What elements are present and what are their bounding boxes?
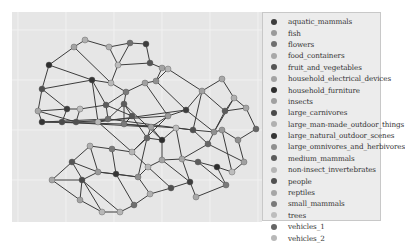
legend-swatch-icon xyxy=(271,235,277,241)
graph-node xyxy=(35,108,41,114)
legend: aquatic_mammalsfishflowersfood_container… xyxy=(262,12,381,221)
graph-node xyxy=(39,119,45,125)
graph-node xyxy=(82,37,88,43)
legend-label: vehicles_2 xyxy=(288,234,325,243)
graph-node xyxy=(229,169,235,175)
graph-node xyxy=(159,157,165,163)
graph-node xyxy=(223,182,229,188)
graph-node xyxy=(131,202,137,208)
legend-label: aquatic_mammals xyxy=(288,17,352,26)
graph-node xyxy=(79,177,85,183)
legend-swatch-icon xyxy=(271,167,277,173)
legend-item: flowers xyxy=(271,39,380,50)
graph-edge xyxy=(214,98,234,132)
network-plot-panel xyxy=(12,12,262,222)
graph-edge xyxy=(132,152,148,167)
legend-swatch-icon xyxy=(271,110,277,116)
legend-swatch-icon xyxy=(271,30,277,36)
graph-edge xyxy=(80,105,106,109)
legend-swatch-icon xyxy=(271,76,277,82)
graph-node xyxy=(46,62,52,68)
graph-node xyxy=(168,185,174,191)
graph-edge xyxy=(90,146,98,172)
graph-edge xyxy=(202,91,225,111)
graph-node xyxy=(99,209,105,215)
legend-item: small_mammals xyxy=(271,198,380,209)
graph-node xyxy=(69,159,75,165)
graph-node xyxy=(179,156,185,162)
graph-node xyxy=(103,102,109,108)
graph-node xyxy=(135,174,141,180)
graph-node xyxy=(143,41,149,47)
graph-edge xyxy=(42,89,67,109)
graph-edge xyxy=(148,167,171,188)
graph-node xyxy=(117,209,123,215)
legend-swatch-icon xyxy=(271,155,277,161)
legend-item: fruit_and_vegetables xyxy=(271,62,380,73)
legend-label: non-insect_invertebrates xyxy=(288,165,376,174)
legend-label: food_containers xyxy=(288,51,344,60)
graph-edge xyxy=(222,79,234,98)
graph-edge xyxy=(116,174,134,205)
legend-label: vehicles_1 xyxy=(288,222,325,231)
legend-item: large_man-made_outdoor_things xyxy=(271,119,380,130)
graph-edge xyxy=(182,144,208,159)
graph-node xyxy=(222,108,228,114)
graph-edge xyxy=(38,89,42,111)
legend-swatch-icon xyxy=(271,144,277,150)
graph-node xyxy=(147,60,153,66)
graph-node xyxy=(153,78,159,84)
legend-item: non-insect_invertebrates xyxy=(271,164,380,175)
graph-node xyxy=(195,159,201,165)
graph-node xyxy=(235,137,241,143)
legend-label: trees xyxy=(288,211,306,220)
legend-label: insects xyxy=(288,97,313,106)
legend-item: vehicles_1 xyxy=(271,221,380,232)
graph-node xyxy=(253,126,259,132)
legend-swatch-icon xyxy=(271,201,277,207)
graph-node xyxy=(241,159,247,165)
graph-edge xyxy=(72,146,90,162)
legend-item: large_omnivores_and_herbivores xyxy=(271,141,380,152)
graph-edge xyxy=(132,116,168,152)
graph-node xyxy=(73,119,79,125)
graph-node xyxy=(183,107,189,113)
legend-swatch-icon xyxy=(271,64,277,70)
graph-edge xyxy=(150,188,171,194)
legend-item: insects xyxy=(271,96,380,107)
legend-label: reptiles xyxy=(288,188,315,197)
graph-node xyxy=(123,89,129,95)
legend-swatch-icon xyxy=(271,224,277,230)
graph-node xyxy=(127,40,133,46)
legend-item: large_carnivores xyxy=(271,107,380,118)
graph-edge xyxy=(118,63,150,65)
graph-node xyxy=(199,88,205,94)
legend-swatch-icon xyxy=(271,212,277,218)
legend-label: large_omnivores_and_herbivores xyxy=(288,142,405,151)
legend-swatch-icon xyxy=(271,53,277,59)
graph-node xyxy=(165,66,171,72)
legend-item: food_containers xyxy=(271,50,380,61)
graph-edge xyxy=(118,43,130,65)
legend-label: small_mammals xyxy=(288,199,345,208)
graph-edge xyxy=(202,79,222,91)
graph-node xyxy=(77,197,83,203)
graph-edge xyxy=(49,65,92,80)
legend-label: people xyxy=(288,177,312,186)
graph-node xyxy=(148,124,154,130)
legend-swatch-icon xyxy=(271,87,277,93)
legend-label: fruit_and_vegetables xyxy=(288,63,362,72)
legend-swatch-icon xyxy=(271,178,277,184)
legend-swatch-icon xyxy=(271,121,277,127)
graph-node xyxy=(173,125,179,131)
legend-label: medium_mammals xyxy=(288,154,355,163)
graph-node xyxy=(193,194,199,200)
graph-node xyxy=(95,119,101,125)
graph-edge xyxy=(49,47,74,65)
graph-node xyxy=(109,146,115,152)
legend-swatch-icon xyxy=(271,98,277,104)
graph-node xyxy=(77,106,83,112)
graph-edge xyxy=(72,162,98,172)
graph-node xyxy=(219,127,225,133)
legend-item: fish xyxy=(271,27,380,38)
